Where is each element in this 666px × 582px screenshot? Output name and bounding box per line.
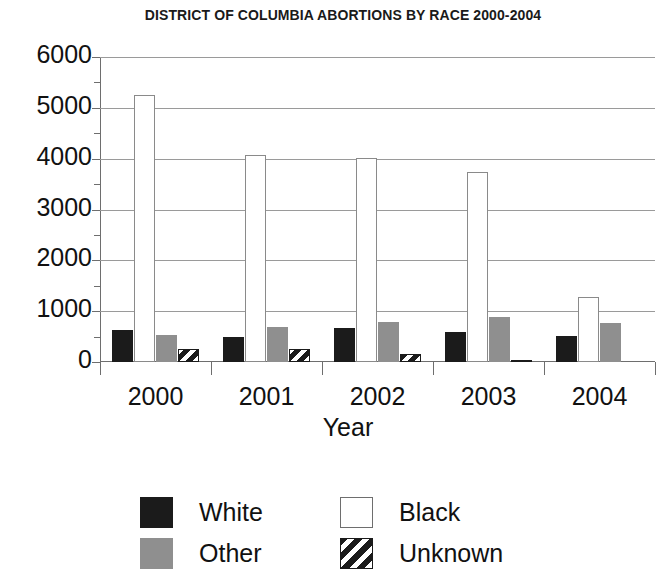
x-axis-label-2004: 2004: [540, 382, 660, 411]
bar-white-2004: [556, 336, 577, 362]
x-axis-label-2002: 2002: [318, 382, 438, 411]
x-axis-tick: [433, 362, 434, 375]
legend-row: OtherUnknown: [140, 533, 540, 574]
bar-chart: DISTRICT OF COLUMBIA ABORTIONS BY RACE 2…: [0, 0, 666, 582]
legend-label-other: Other: [199, 539, 262, 568]
x-axis-label-2000: 2000: [96, 382, 216, 411]
bar-white-2002: [334, 328, 355, 362]
bar-other-2002: [378, 322, 399, 362]
bar-white-2000: [112, 330, 133, 362]
bar-black-2004: [578, 297, 599, 362]
y-axis-tick-label: 1000: [0, 294, 92, 323]
legend-item-unknown: Unknown: [340, 538, 540, 569]
legend-item-white: White: [140, 497, 340, 528]
x-axis-tick: [544, 362, 545, 375]
x-axis-tick: [655, 362, 656, 375]
bar-unknown-2000: [178, 349, 199, 362]
bar-group: [100, 57, 211, 362]
bar-white-2003: [445, 332, 466, 363]
bar-other-2000: [156, 335, 177, 362]
bar-group: [433, 57, 544, 362]
diagonal-hatch-swatch: [340, 538, 373, 569]
legend-label-black: Black: [399, 498, 460, 527]
solid-black-swatch: [140, 497, 173, 528]
bar-unknown-2001: [289, 349, 310, 362]
x-axis-title: Year: [0, 413, 666, 442]
x-axis-label-2001: 2001: [207, 382, 327, 411]
bar-group: [544, 57, 655, 362]
y-axis-tick-label: 6000: [0, 40, 92, 69]
solid-gray-swatch: [140, 538, 173, 569]
bar-unknown-2002: [400, 354, 421, 362]
legend-label-unknown: Unknown: [399, 539, 503, 568]
y-axis-tick-label: 4000: [0, 142, 92, 171]
bar-black-2001: [245, 155, 266, 362]
y-axis-tick-label: 0: [0, 345, 92, 374]
legend-item-other: Other: [140, 538, 340, 569]
x-axis-tick: [211, 362, 212, 375]
bar-other-2001: [267, 327, 288, 362]
x-axis-label-2003: 2003: [429, 382, 549, 411]
bar-black-2003: [467, 172, 488, 362]
legend-item-black: Black: [340, 497, 540, 528]
bar-other-2003: [489, 317, 510, 362]
bar-other-2004: [600, 323, 621, 362]
y-axis-tick-label: 2000: [0, 243, 92, 272]
legend-row: WhiteBlack: [140, 492, 540, 533]
chart-legend: WhiteBlackOtherUnknown: [140, 492, 540, 574]
bar-black-2000: [134, 95, 155, 362]
bar-group: [211, 57, 322, 362]
bar-white-2001: [223, 337, 244, 362]
x-axis-tick: [322, 362, 323, 375]
chart-title: DISTRICT OF COLUMBIA ABORTIONS BY RACE 2…: [0, 7, 666, 23]
bar-unknown-2003: [511, 360, 532, 362]
x-axis-tick: [100, 362, 101, 375]
outlined-white-swatch: [340, 497, 373, 528]
bar-group: [322, 57, 433, 362]
y-axis-tick-label: 3000: [0, 193, 92, 222]
legend-label-white: White: [199, 498, 263, 527]
bar-black-2002: [356, 158, 377, 362]
y-axis-tick-label: 5000: [0, 91, 92, 120]
plot-area: [100, 57, 655, 362]
